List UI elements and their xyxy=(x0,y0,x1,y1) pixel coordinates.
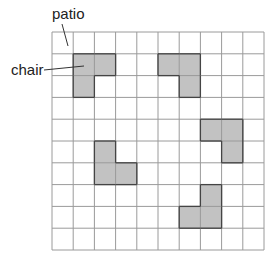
patio-diagram: patio chair xyxy=(0,0,274,255)
chair-label: chair xyxy=(11,61,44,78)
patio-label: patio xyxy=(52,5,85,22)
patio-leader-line xyxy=(62,24,68,46)
